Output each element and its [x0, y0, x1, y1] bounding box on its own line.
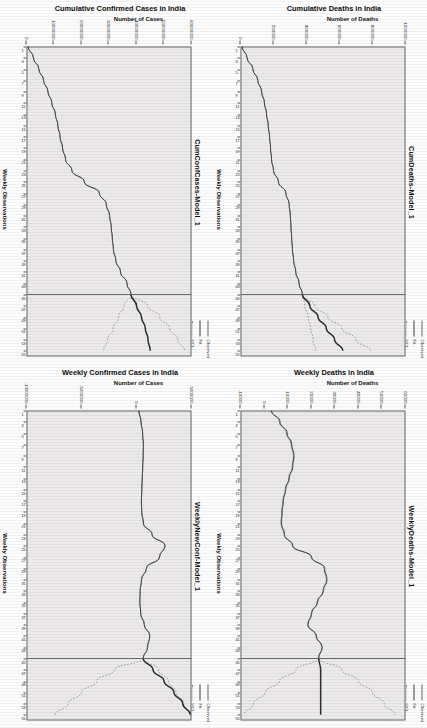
x-tick-label: 45 — [17, 660, 21, 664]
y-tick-label: 800000 — [370, 24, 375, 39]
y-tick-label: 1000000 — [403, 22, 408, 39]
x-tick-label: 29 — [17, 205, 21, 209]
series-lcl — [103, 294, 131, 350]
y-tick-mark — [310, 404, 311, 408]
x-tick-label: 3 — [231, 423, 235, 425]
x-tick-label: 39 — [231, 262, 235, 266]
series-fit — [242, 46, 302, 294]
x-tick-label: 19 — [17, 149, 21, 153]
x-tick-label: 31 — [17, 581, 21, 585]
x-tick-label: 31 — [231, 581, 235, 585]
x-tick-label: 51 — [17, 329, 21, 333]
x-tick-label: 51 — [231, 329, 235, 333]
y-tick-label: -10000 — [238, 389, 243, 403]
x-tick-label: 37 — [231, 251, 235, 255]
y-tick-mark — [135, 404, 136, 408]
chart-title: WeeklyNewConf-Model_1 — [192, 364, 201, 728]
x-tick-label: 39 — [17, 262, 21, 266]
plot-area — [240, 410, 405, 720]
legend-line-swatch-observed — [421, 684, 422, 700]
x-tick-label: 23 — [231, 172, 235, 176]
x-tick-label: 53 — [17, 341, 21, 345]
legend-item: Observed — [418, 320, 425, 358]
y-tick-label: 30000000 — [106, 19, 111, 39]
x-tick-label: 11 — [17, 468, 21, 472]
chart-cell-weekly-new-conf: ObservedFitUCLLCLForecastWeeklyNewConf-M… — [0, 364, 213, 728]
x-tick-label: 21 — [17, 160, 21, 164]
x-tick-label: 49 — [231, 318, 235, 322]
x-tick-label: 55 — [231, 716, 235, 720]
y-tick-label: 30000 — [332, 391, 337, 403]
x-tick-label: 41 — [17, 637, 21, 641]
x-tick-label: 43 — [231, 648, 235, 652]
x-tick-label: 35 — [17, 603, 21, 607]
x-tick-label: 29 — [231, 205, 235, 209]
series-forecast — [318, 658, 320, 714]
x-tick-label: 9 — [231, 457, 235, 459]
x-tick-label: 21 — [17, 524, 21, 528]
x-tick-label: 5 — [231, 434, 235, 436]
y-tick-label: 0 — [261, 401, 266, 403]
legend-item: Observed — [418, 684, 425, 722]
x-tick-label: 9 — [231, 93, 235, 95]
x-tick-label: 25 — [231, 183, 235, 187]
x-tick-label: 1 — [231, 48, 235, 50]
series-observed — [242, 46, 302, 294]
legend-label: Observed — [419, 703, 424, 722]
y-tick-label: 200000 — [271, 24, 276, 39]
y-tick-mark — [80, 404, 81, 408]
x-tick-label: 25 — [17, 547, 21, 551]
y-tick-label: 0 — [134, 401, 139, 403]
y-tick-label: -5000000 — [79, 384, 84, 403]
x-tick-label: 41 — [231, 637, 235, 641]
y-tick-mark — [53, 40, 54, 44]
x-tick-label: 27 — [17, 194, 21, 198]
x-tick-label: 33 — [231, 592, 235, 596]
x-tick-label: 13 — [17, 115, 21, 119]
x-tick-label: 37 — [17, 251, 21, 255]
y-tick-label: 40000000 — [134, 19, 139, 39]
y-tick-mark — [333, 404, 334, 408]
x-tick-label: 53 — [17, 705, 21, 709]
y-tick-label: 10000000 — [51, 19, 56, 39]
x-tick-label: 1 — [17, 412, 21, 414]
x-tick-label: 45 — [231, 660, 235, 664]
y-tick-mark — [380, 404, 381, 408]
y-tick-label: 60000000 — [189, 19, 194, 39]
x-tick-label: 47 — [17, 671, 21, 675]
y-axis-labels: 50000000-5000000-10000000 — [26, 364, 191, 408]
x-tick-label: 17 — [17, 502, 21, 506]
x-tick-label: 25 — [231, 547, 235, 551]
x-tick-label: 7 — [231, 445, 235, 447]
x-tick-label: 37 — [17, 615, 21, 619]
plot-area — [26, 410, 191, 720]
y-tick-mark — [357, 404, 358, 408]
legend-item: Observed — [204, 320, 211, 358]
plot-area — [240, 46, 405, 356]
x-tick-label: 39 — [231, 626, 235, 630]
x-tick-label: 17 — [231, 138, 235, 142]
y-tick-label: 5000000 — [189, 386, 194, 403]
x-tick-label: 37 — [231, 615, 235, 619]
x-tick-label: 5 — [17, 434, 21, 436]
y-axis-labels: 02000004000006000008000001000000 — [240, 0, 405, 44]
y-tick-mark — [135, 40, 136, 44]
x-tick-label: 55 — [17, 716, 21, 720]
x-tick-label: 15 — [231, 127, 235, 131]
legend-line-swatch-observed — [207, 684, 208, 700]
x-tick-label: 3 — [231, 59, 235, 61]
y-tick-mark — [404, 40, 405, 44]
y-tick-mark — [263, 404, 264, 408]
series-lcl — [244, 658, 319, 714]
x-tick-label: 15 — [17, 491, 21, 495]
x-axis-labels: 1357911131517192123252729313335373941434… — [218, 410, 240, 720]
x-tick-label: 27 — [231, 558, 235, 562]
x-tick-label: 23 — [17, 172, 21, 176]
x-tick-label: 55 — [17, 352, 21, 356]
legend-label: Observed — [419, 339, 424, 358]
x-tick-label: 1 — [231, 412, 235, 414]
x-tick-label: 47 — [17, 307, 21, 311]
x-tick-label: 31 — [17, 217, 21, 221]
y-tick-mark — [163, 40, 164, 44]
x-tick-label: 15 — [17, 127, 21, 131]
